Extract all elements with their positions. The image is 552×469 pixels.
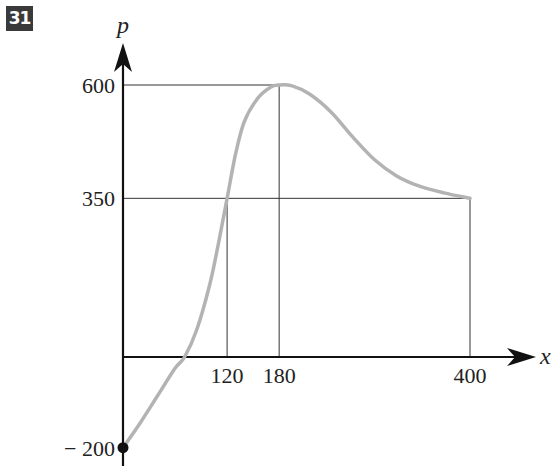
reference-lines [123, 85, 470, 357]
chart: 600350− 200120180400xp [0, 0, 552, 469]
x-tick-label: 120 [211, 363, 244, 388]
curve-layer [118, 85, 471, 453]
y-tick-label: 350 [82, 186, 115, 211]
series-curve [123, 85, 470, 448]
y-axis-label: p [115, 12, 129, 38]
marked-point [118, 442, 129, 453]
x-tick-label: 400 [454, 363, 487, 388]
y-tick-label: − 200 [64, 436, 115, 461]
y-tick-label: 600 [82, 73, 115, 98]
x-tick-label: 180 [263, 363, 296, 388]
x-axis-label: x [539, 343, 551, 369]
labels: 600350− 200120180400xp [64, 12, 551, 461]
